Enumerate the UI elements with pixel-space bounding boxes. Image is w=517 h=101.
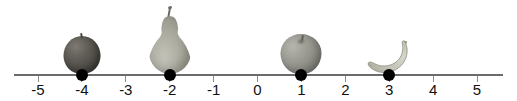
tick-label: -2 [153, 80, 187, 99]
pear-icon [149, 8, 191, 74]
apple-icon [281, 34, 322, 74]
pear-body-icon [149, 16, 191, 74]
tick-label: 0 [241, 80, 275, 99]
tick-label: -5 [21, 80, 55, 99]
number-line-figure: -5-4-3-2-1012345 [0, 0, 517, 101]
tick-label: 2 [328, 80, 362, 99]
tick-label: -3 [109, 80, 143, 99]
tick-label: 1 [284, 80, 318, 99]
tick-label: -1 [197, 80, 231, 99]
tick-label: 3 [372, 80, 406, 99]
tick-label: -4 [65, 80, 99, 99]
tick-label: 4 [416, 80, 450, 99]
tick-label: 5 [460, 80, 494, 99]
